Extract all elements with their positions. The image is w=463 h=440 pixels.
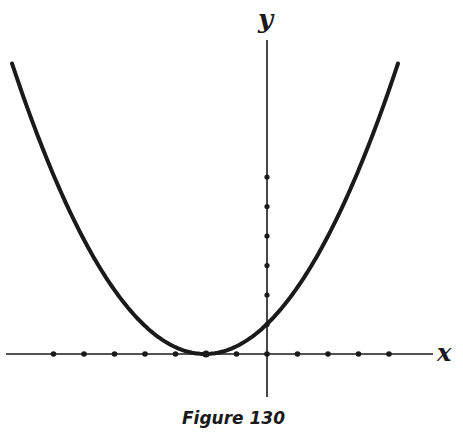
x-tick-dot — [356, 351, 362, 357]
y-axis-label: y — [258, 4, 273, 34]
x-tick-dot — [325, 351, 331, 357]
y-tick-dot — [264, 204, 269, 209]
x-tick-dot — [81, 351, 87, 357]
x-tick-dot — [295, 351, 301, 357]
figure-caption: Figure 130 — [0, 408, 463, 428]
x-tick-dot — [51, 351, 57, 357]
x-tick-dot — [112, 351, 118, 357]
x-tick-dot — [142, 351, 148, 357]
y-tick-dot — [264, 233, 269, 238]
y-tick-dot — [264, 174, 269, 179]
y-tick-dot — [264, 263, 269, 268]
x-tick-dot — [173, 351, 179, 357]
x-axis-label: x — [437, 338, 451, 367]
x-tick-dot — [386, 351, 392, 357]
parabola-plot — [0, 0, 463, 440]
y-tick-dot — [264, 292, 269, 297]
figure: y x Figure 130 — [0, 0, 463, 440]
parabola-curve — [12, 64, 398, 355]
x-tick-dot — [264, 351, 270, 357]
x-tick-dot — [234, 351, 240, 357]
